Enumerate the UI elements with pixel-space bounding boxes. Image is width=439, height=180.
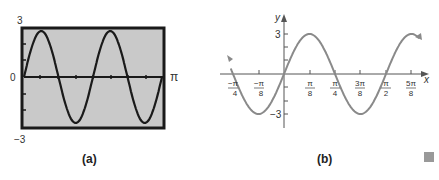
y-tick-neg3: −3: [270, 109, 282, 120]
x-tick-numerator: π: [332, 79, 338, 88]
a-zero-label: 0: [10, 72, 16, 83]
figure: 3 0 −3 π −π4−π8π8π43π8π25π8 y x: [0, 0, 439, 180]
x-tick-numerator: −π: [228, 79, 239, 88]
caption-b: (b): [317, 152, 332, 166]
x-tick-denominator: 2: [384, 89, 389, 98]
x-tick-numerator: −π: [254, 79, 265, 88]
a-bottom-label: −3: [14, 134, 26, 145]
end-of-proof-square-icon: [424, 152, 434, 162]
x-tick-denominator: 8: [409, 89, 414, 98]
x-tick-numerator: 5π: [406, 79, 416, 88]
a-top-label: 3: [17, 15, 23, 26]
y-axis-label: y: [274, 12, 281, 23]
x-axis-label: x: [423, 74, 430, 85]
curve-right-arrow-icon: [415, 33, 422, 40]
panel-a: 3 0 −3 π: [10, 15, 178, 145]
x-tick-numerator: 3π: [355, 79, 365, 88]
curve-left-arrow-icon: [227, 55, 233, 62]
panel-b: −π4−π8π8π43π8π25π8 y x 3 −3: [220, 12, 430, 128]
x-tick-denominator: 8: [308, 89, 313, 98]
x-tick-denominator: 8: [358, 89, 363, 98]
y-axis-arrow-icon: [281, 14, 287, 22]
a-pi-label: π: [170, 70, 178, 84]
x-tick-numerator: π: [307, 79, 313, 88]
x-tick-denominator: 4: [333, 89, 338, 98]
x-tick-labels: −π4−π8π8π43π8π25π8: [228, 79, 417, 98]
caption-a: (a): [82, 152, 97, 166]
x-tick-denominator: 4: [233, 89, 238, 98]
x-tick-numerator: π: [383, 79, 389, 88]
y-tick-3: 3: [275, 29, 281, 40]
x-tick-denominator: 8: [259, 89, 264, 98]
